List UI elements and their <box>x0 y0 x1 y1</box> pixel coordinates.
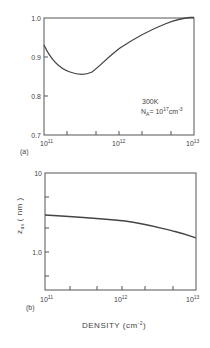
figure: 1.0 0.9 0.8 0.7 1011 1012 1013 (a) 300K … <box>0 0 210 348</box>
b-xlabel-1e11: 1011 <box>40 294 53 303</box>
panel-a-label: (a) <box>20 148 29 156</box>
b-ylabel-10: 10 <box>34 170 42 177</box>
a-ylabel-0.9: 0.9 <box>31 54 41 61</box>
a-xlabel-1e12: 1012 <box>112 138 126 147</box>
a-ylabel-1.0: 1.0 <box>31 15 41 22</box>
b-ylabel-1.0: 1.0 <box>32 249 42 256</box>
panel-b-curve <box>45 215 196 238</box>
a-xlabel-1e11: 1011 <box>40 138 53 147</box>
b-xlabel-1e13: 1013 <box>186 294 200 303</box>
annotation-temperature: 300K <box>142 98 159 105</box>
panel-b-label: (b) <box>26 304 35 312</box>
annotation-doping: NA= 1017cm-3 <box>141 106 183 117</box>
b-y-axis-title: zav( nm ) <box>15 197 25 234</box>
a-ylabel-0.7: 0.7 <box>31 132 41 139</box>
panel-b: 10 1.0 zav( nm ) 1011 1012 1013 (b) DENS… <box>15 170 200 330</box>
panel-a-curve <box>44 18 194 75</box>
b-xlabel-1e12: 1012 <box>114 294 128 303</box>
panel-a: 1.0 0.9 0.8 0.7 1011 1012 1013 (a) 300K … <box>20 15 200 156</box>
a-xlabel-1e13: 1013 <box>186 138 200 147</box>
panel-a-frame <box>44 18 194 135</box>
x-axis-title: DENSITY (cm-2) <box>82 320 146 330</box>
a-ylabel-0.8: 0.8 <box>31 93 41 100</box>
